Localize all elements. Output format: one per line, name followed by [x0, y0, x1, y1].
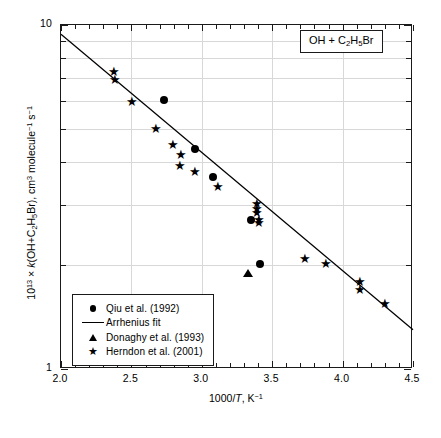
y-tick-label: 1 [32, 361, 52, 373]
y-tick-label: 10 [32, 17, 52, 29]
data-point-star: ★ [379, 298, 390, 309]
circle-marker [80, 301, 106, 316]
data-point-star: ★ [299, 253, 310, 264]
data-point-star: ★ [212, 181, 223, 192]
x-tick-label: 4.0 [319, 372, 365, 384]
star-marker: ★ [80, 345, 106, 360]
data-point-star: ★ [174, 160, 185, 171]
x-tick-label: 4.5 [389, 372, 435, 384]
data-point-star: ★ [126, 96, 137, 107]
x-axis-title: 1000/T, K−1 [60, 392, 412, 404]
line-marker [80, 316, 106, 331]
data-point-circle [160, 96, 168, 104]
y-tick [404, 369, 411, 370]
data-point-star: ★ [150, 123, 161, 134]
legend-item-label: Herndon et al. (2001) [106, 346, 203, 357]
x-tick-label: 2.5 [107, 372, 153, 384]
legend-item-label: Arrhenius fit [106, 317, 161, 328]
triangle-marker [80, 330, 106, 345]
legend-item-label: Qiu et al. (1992) [106, 303, 179, 314]
data-point-circle [256, 260, 264, 268]
legend-item: Qiu et al. (1992) [80, 301, 204, 316]
data-point-star: ★ [109, 74, 120, 85]
x-tick [413, 25, 414, 31]
data-point-triangle [243, 269, 253, 277]
data-point-star: ★ [253, 217, 264, 228]
data-point-star: ★ [354, 284, 365, 295]
y-tick [61, 369, 68, 370]
legend: Qiu et al. (1992)Arrhenius fitDonaghy et… [72, 294, 214, 366]
caption-remnant [42, 424, 402, 431]
legend-item: Arrhenius fit [80, 316, 204, 331]
x-tick-label: 3.0 [178, 372, 224, 384]
legend-item-label: Donaghy et al. (1993) [106, 332, 204, 343]
reaction-annotation-box: OH + C2H5Br [300, 30, 383, 53]
data-point-star: ★ [189, 166, 200, 177]
x-tick-label: 2.0 [37, 372, 83, 384]
y-axis-title: 1013 × k(OH+C2H5Br), cm3 molecule−1 s−1 [25, 53, 39, 353]
x-tick [413, 361, 414, 367]
arrhenius-plot-figure: ★★★★★★★★★★★★★★★★★★★ 2.02.53.03.54.04.5 1… [0, 0, 441, 438]
legend-item: ★Herndon et al. (2001) [80, 345, 204, 360]
x-tick-label: 3.5 [248, 372, 294, 384]
legend-item: Donaghy et al. (1993) [80, 330, 204, 345]
data-point-star: ★ [320, 258, 331, 269]
